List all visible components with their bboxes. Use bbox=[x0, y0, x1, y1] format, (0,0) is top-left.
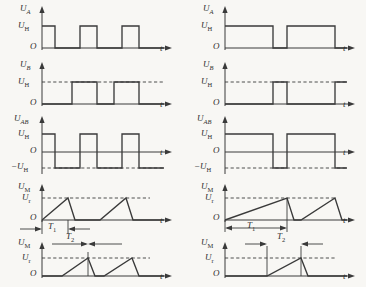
label-right-t1: T1 bbox=[247, 221, 255, 232]
label-left-ua-uh: UH bbox=[18, 21, 29, 32]
label-right-um2: UM bbox=[201, 238, 213, 249]
label-right-um2-origin: O bbox=[213, 269, 220, 278]
label-left-ub-origin: O bbox=[30, 98, 37, 107]
label-left-ua-origin: O bbox=[30, 42, 37, 51]
panel-left-um-t2: UM Ur O T2 t bbox=[0, 232, 183, 287]
panel-right-um-t2: UM Ur O T2 t bbox=[183, 232, 366, 287]
label-left-um1-time: t bbox=[160, 216, 163, 225]
label-left-ub: UB bbox=[20, 60, 30, 71]
panel-right-ub: UB UH O t bbox=[183, 60, 366, 112]
panel-left-um-t1: UM Ur O T1 t bbox=[0, 182, 183, 238]
label-right-um1-origin: O bbox=[213, 213, 220, 222]
label-left-um2: UM bbox=[18, 238, 30, 249]
label-left-ub-uh: UH bbox=[18, 77, 29, 88]
label-left-uab-origin: O bbox=[30, 146, 37, 155]
label-right-ua-origin: O bbox=[213, 42, 220, 51]
left-column: UA UH O t UB UH O t bbox=[0, 0, 183, 287]
label-right-um1-time: t bbox=[343, 216, 346, 225]
panel-right-um-t1: UM Ur O T1 t bbox=[183, 182, 366, 238]
panel-left-ua: UA UH O t bbox=[0, 4, 183, 56]
waveform-figure: UA UH O t UB UH O t bbox=[0, 0, 366, 287]
panel-right-uab: UAB UH O −UH t bbox=[183, 114, 366, 180]
label-left-um1-ur: Ur bbox=[22, 193, 31, 204]
label-left-uab-uh: UH bbox=[18, 129, 29, 140]
right-column: UA UH O t UB UH O t bbox=[183, 0, 366, 287]
label-left-um1-origin: O bbox=[30, 213, 37, 222]
label-left-uab-time: t bbox=[160, 148, 163, 157]
label-left-um2-origin: O bbox=[30, 269, 37, 278]
label-right-um1-ur: Ur bbox=[205, 193, 214, 204]
label-left-ua: UA bbox=[20, 4, 30, 15]
label-right-ua: UA bbox=[203, 4, 213, 15]
label-left-uab-neg-uh: −UH bbox=[11, 162, 28, 173]
label-right-uab-neg-uh: −UH bbox=[194, 162, 211, 173]
label-right-uab-time: t bbox=[343, 148, 346, 157]
label-left-t2: T2 bbox=[66, 232, 74, 243]
label-right-um2-time: t bbox=[343, 272, 346, 281]
label-right-ub-origin: O bbox=[213, 98, 220, 107]
label-left-um2-ur: Ur bbox=[22, 253, 31, 264]
label-left-uab: UAB bbox=[14, 114, 28, 125]
label-right-ub-uh: UH bbox=[201, 77, 212, 88]
label-right-uab-uh: UH bbox=[201, 129, 212, 140]
label-right-t2: T2 bbox=[277, 232, 285, 243]
label-left-ub-time: t bbox=[160, 100, 163, 109]
label-left-ua-time: t bbox=[160, 44, 163, 53]
label-right-ua-uh: UH bbox=[201, 21, 212, 32]
label-left-um2-time: t bbox=[160, 272, 163, 281]
panel-left-ub: UB UH O t bbox=[0, 60, 183, 112]
label-right-uab-origin: O bbox=[213, 146, 220, 155]
label-right-ua-time: t bbox=[343, 44, 346, 53]
label-right-ub-time: t bbox=[343, 100, 346, 109]
label-right-ub: UB bbox=[203, 60, 213, 71]
panel-left-uab: UAB UH O −UH t bbox=[0, 114, 183, 180]
label-right-um2-ur: Ur bbox=[205, 253, 214, 264]
label-right-uab: UAB bbox=[197, 114, 211, 125]
panel-right-ua: UA UH O t bbox=[183, 4, 366, 56]
